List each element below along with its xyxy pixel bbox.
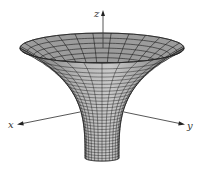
funnel-surface: [20, 33, 184, 161]
y-axis-label: y: [186, 120, 193, 131]
funnel-surface-figure: z x y: [0, 0, 201, 173]
x-axis-arrowhead: [17, 121, 24, 125]
y-axis: [124, 112, 182, 124]
x-axis-label: x: [8, 119, 14, 130]
z-axis-label: z: [93, 8, 100, 19]
x-axis: [20, 112, 80, 124]
y-axis-arrowhead: [178, 121, 185, 125]
z-axis-arrowhead: [101, 10, 105, 16]
